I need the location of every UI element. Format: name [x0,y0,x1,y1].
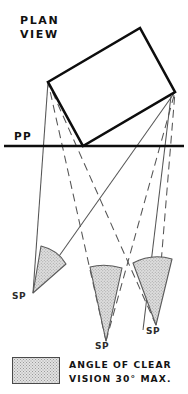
legend-swatch-angle-of-clear-vision [12,357,60,384]
station-point-label-left: SP [12,291,26,302]
station-point-label-middle: SP [95,341,109,352]
page-title: PLANVIEW [20,14,59,42]
legend-text-line2: VISION 30° MAX. [69,373,171,384]
clear-vision-wedge-sp-mid [90,265,122,341]
legend-text: ANGLE OF CLEARVISION 30° MAX. [69,357,172,387]
legend-text-line1: ANGLE OF CLEAR [69,359,172,370]
building-outline [48,28,175,146]
plan-view-title-line2: VIEW [20,28,59,41]
plan-view-diagram: PLANVIEW PP SP SP SP ANGLE OF CLEARVISIO… [0,0,188,394]
station-point-label-right: SP [146,326,160,337]
legend: ANGLE OF CLEARVISION 30° MAX. [12,357,172,387]
picture-plane-label: PP [14,130,32,143]
plan-view-title-line1: PLAN [20,14,59,27]
clear-vision-wedge-sp-right [133,257,172,325]
